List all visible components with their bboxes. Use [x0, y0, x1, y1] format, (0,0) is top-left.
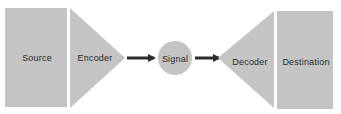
- decoder-label: Decoder: [232, 57, 267, 67]
- communication-diagram: Source Encoder Signal Decoder Destinatio…: [0, 0, 341, 114]
- destination-label: Destination: [282, 57, 329, 67]
- encoder-label: Encoder: [78, 53, 113, 63]
- signal-label: Signal: [162, 54, 188, 64]
- source-label: Source: [22, 53, 52, 63]
